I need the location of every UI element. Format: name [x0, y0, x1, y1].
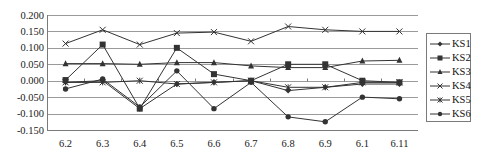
circle-marker-icon — [100, 76, 105, 81]
series-line — [66, 81, 400, 109]
legend-item-ks4: KS4 — [430, 79, 468, 93]
x-tick-label: 6.5 — [170, 138, 183, 149]
x-tick-label: 6.8 — [282, 138, 295, 149]
y-tick-label: 0.050 — [20, 59, 44, 70]
series-line — [66, 27, 400, 45]
x-tick-label: 6.6 — [207, 138, 220, 149]
x-legend-icon — [430, 81, 450, 91]
legend-label: KS3 — [452, 65, 471, 79]
square-marker-icon — [100, 42, 106, 48]
legend-label: KS6 — [452, 107, 471, 121]
x-tick-label: 6.7 — [244, 138, 257, 149]
chart-plot: 0.2000.1500.1000.0500.000-0.050-0.100-0.… — [0, 0, 485, 159]
circle-legend-icon — [430, 109, 450, 119]
square-legend-icon — [430, 53, 450, 63]
legend-item-ks6: KS6 — [430, 107, 468, 121]
legend-item-ks5: KS5 — [430, 93, 468, 107]
x-tick-label: 6.1 — [356, 138, 369, 149]
circle-marker-icon — [137, 104, 142, 109]
x-marker-icon — [248, 38, 254, 44]
y-tick-label: 0.200 — [20, 10, 44, 21]
series-line — [66, 45, 400, 109]
x-marker-icon — [137, 42, 143, 48]
legend-item-ks2: KS2 — [430, 51, 468, 65]
x-marker-icon — [63, 41, 69, 47]
y-tick-label: 0.100 — [20, 42, 44, 53]
x-tick-label: 6.9 — [319, 138, 332, 149]
y-tick-label: -0.150 — [17, 125, 44, 136]
circle-marker-icon — [63, 86, 68, 91]
x-tick-label: 6.2 — [59, 138, 72, 149]
circle-marker-icon — [285, 114, 290, 119]
diamond-marker-icon — [438, 42, 443, 47]
legend-item-ks3: KS3 — [430, 65, 468, 79]
y-tick-label: 0.150 — [20, 26, 44, 37]
x-tick-label: 6.4 — [133, 138, 147, 149]
x-axis-ticks: 6.26.36.46.56.66.76.86.96.16.11 — [59, 138, 408, 149]
circle-marker-icon — [323, 119, 328, 124]
circle-marker-icon — [248, 80, 253, 85]
diamond-legend-icon — [430, 39, 450, 49]
circle-marker-icon — [211, 106, 216, 111]
y-tick-label: -0.100 — [17, 108, 44, 119]
triangle-legend-icon — [430, 67, 450, 77]
y-axis-ticks: 0.2000.1500.1000.0500.000-0.050-0.100-0.… — [17, 10, 44, 136]
series-ks3 — [63, 57, 403, 70]
circle-marker-icon — [174, 68, 179, 73]
circle-marker-icon — [360, 94, 365, 99]
square-marker-icon — [174, 45, 180, 51]
square-marker-icon — [438, 56, 443, 61]
series-ks2 — [63, 42, 403, 112]
series-ks4 — [63, 24, 403, 48]
line-chart: 0.2000.1500.1000.0500.000-0.050-0.100-0.… — [0, 0, 485, 159]
legend-item-ks1: KS1 — [430, 37, 468, 51]
series-ks6 — [63, 68, 402, 124]
series-ks1 — [63, 78, 403, 112]
legend: KS1KS2KS3KS4KS5KS6 — [426, 33, 471, 122]
legend-label: KS5 — [452, 93, 471, 107]
series-lines — [63, 24, 403, 125]
legend-label: KS4 — [452, 79, 471, 93]
y-tick-label: -0.050 — [17, 92, 44, 103]
legend-label: KS2 — [452, 51, 471, 65]
gridlines — [47, 15, 418, 131]
star-legend-icon — [430, 95, 450, 105]
x-tick-label: 6.11 — [390, 138, 408, 149]
x-tick-label: 6.3 — [96, 138, 109, 149]
circle-marker-icon — [397, 96, 402, 101]
circle-marker-icon — [438, 112, 442, 116]
y-tick-label: 0.000 — [20, 75, 44, 86]
square-marker-icon — [211, 71, 217, 77]
legend-label: KS1 — [452, 37, 471, 51]
